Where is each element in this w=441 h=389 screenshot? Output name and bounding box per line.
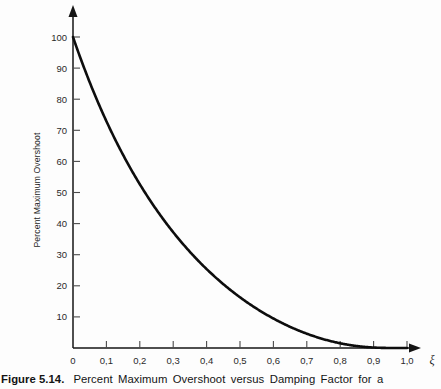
x-tick-label-0-8: 0,8 [334, 355, 347, 366]
x-tick-label-0-3: 0,3 [167, 355, 180, 366]
x-tick-label-1-0: 1,0 [400, 355, 413, 366]
y-tick-label-100: 100 [51, 32, 67, 43]
y-tick-label-10: 10 [56, 311, 67, 322]
x-tick-label-0-7: 0,7 [300, 355, 313, 366]
y-tick-label-30: 30 [56, 249, 67, 260]
y-tick-label-40: 40 [56, 218, 67, 229]
figure-container: 100 90 80 70 60 50 40 30 20 10 0 [0, 0, 441, 389]
x-tick-label-0-4: 0,4 [200, 355, 213, 366]
y-tick-label-70: 70 [56, 125, 67, 136]
y-tick-label-60: 60 [56, 156, 67, 167]
figure-caption: Figure 5.14. Percent Maximum Overshoot v… [0, 368, 441, 389]
x-tick-label-0-2: 0,2 [133, 355, 146, 366]
x-tick-label-0-5: 0,5 [233, 355, 246, 366]
origin-label-0: 0 [70, 355, 75, 366]
y-tick-label-20: 20 [56, 280, 67, 291]
chart-plot-area: 100 90 80 70 60 50 40 30 20 10 0 [0, 0, 441, 368]
x-tick-label-0-9: 0,9 [367, 355, 380, 366]
figure-caption-text: Percent Maximum Overshoot versus Damping… [73, 373, 383, 385]
figure-caption-label: Figure 5.14. [1, 373, 64, 385]
y-tick-label-90: 90 [56, 63, 67, 74]
y-axis-title: Percent Maximum Overshoot [32, 132, 42, 247]
x-tick-label-0-6: 0,6 [267, 355, 280, 366]
y-tick-label-50: 50 [56, 187, 67, 198]
y-tick-label-80: 80 [56, 94, 67, 105]
x-tick-label-0-1: 0,1 [100, 355, 113, 366]
overshoot-chart-svg: 100 90 80 70 60 50 40 30 20 10 0 [0, 0, 441, 368]
x-axis-symbol-xi: ξ [429, 353, 435, 367]
